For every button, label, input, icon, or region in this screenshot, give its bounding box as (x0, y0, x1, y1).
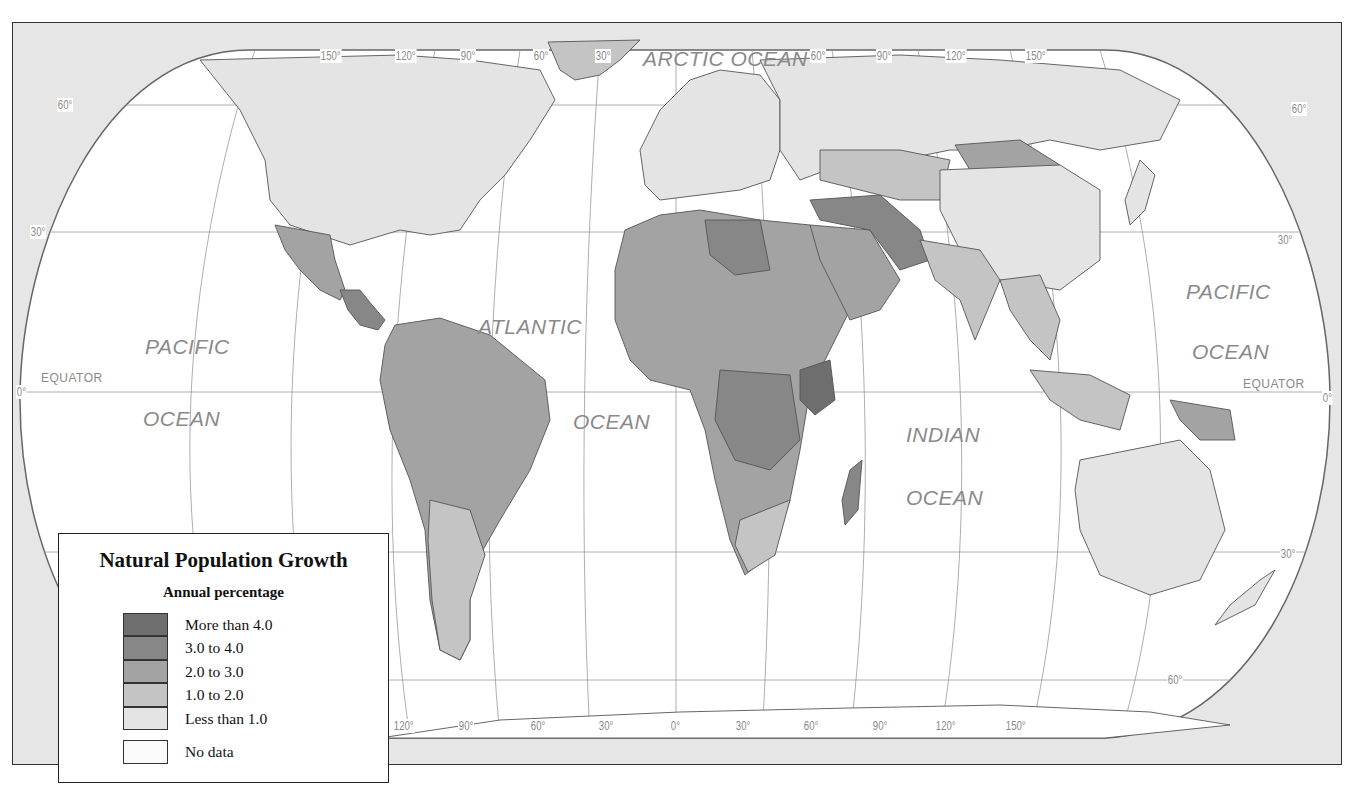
legend-title: Natural Population Growth (59, 548, 388, 573)
legend-no-data: No data (123, 740, 234, 764)
atlantic-ocean-label: ATLANTIC (478, 315, 582, 339)
legend-class-label: More than 4.0 (185, 616, 272, 634)
legend-class: 2.0 to 3.0 (123, 660, 272, 684)
legend-classes: More than 4.0 3.0 to 4.0 2.0 to 3.0 1.0 … (123, 613, 272, 731)
lon-label-top: 90° (460, 49, 476, 63)
indian-ocean-label: INDIAN (906, 423, 980, 447)
legend-class: 3.0 to 4.0 (123, 637, 272, 661)
map-legend: Natural Population Growth Annual percent… (58, 533, 389, 783)
lon-label-top: 120° (395, 49, 416, 63)
legend-class-label: 1.0 to 2.0 (185, 686, 244, 704)
legend-no-data-label: No data (185, 743, 234, 761)
legend-swatch (123, 683, 168, 707)
lat-label-left-0: 0° (16, 385, 27, 399)
legend-class: 1.0 to 2.0 (123, 684, 272, 708)
lat-label-left-60: 60° (57, 98, 73, 112)
lon-label-top: 60° (810, 49, 826, 63)
lat-label-right-s30: 30° (1280, 547, 1296, 561)
lon-label-bottom: 60° (530, 719, 546, 733)
legend-class: Less than 1.0 (123, 707, 272, 731)
legend-class-label: 3.0 to 4.0 (185, 639, 244, 657)
equator-label-right: EQUATOR (1243, 377, 1305, 391)
legend-swatch (123, 636, 168, 660)
lat-label-right-30: 30° (1277, 233, 1293, 247)
lat-label-right-60: 60° (1291, 102, 1307, 116)
lat-label-right-s60: 60° (1167, 673, 1183, 687)
lon-label-bottom: 120° (393, 719, 414, 733)
lon-label-bottom: 150° (1005, 719, 1026, 733)
lon-label-top: 150° (1025, 49, 1046, 63)
lon-label-bottom: 90° (458, 719, 474, 733)
lon-label-top: 150° (320, 49, 341, 63)
lat-label-right-0: 0° (1322, 391, 1333, 405)
lon-label-top: 90° (876, 49, 892, 63)
equator-label-left: EQUATOR (41, 371, 103, 385)
legend-class: More than 4.0 (123, 613, 272, 637)
pacific-ocean-west-label-2: OCEAN (143, 407, 220, 431)
indian-ocean-label-2: OCEAN (906, 486, 983, 510)
pacific-ocean-east-label-2: OCEAN (1192, 340, 1269, 364)
pacific-ocean-west-label: PACIFIC (145, 335, 230, 359)
lon-label-bottom: 0° (670, 719, 681, 733)
lon-label-bottom: 120° (935, 719, 956, 733)
lon-label-bottom: 60° (803, 719, 819, 733)
lon-label-bottom: 30° (598, 719, 614, 733)
pacific-ocean-east-label: PACIFIC (1186, 280, 1271, 304)
lon-label-top: 120° (945, 49, 966, 63)
legend-class-label: Less than 1.0 (185, 710, 267, 728)
atlantic-ocean-label-2: OCEAN (573, 410, 650, 434)
lon-label-top: 30° (595, 49, 611, 63)
legend-swatch (123, 660, 168, 684)
legend-class-label: 2.0 to 3.0 (185, 663, 244, 681)
lon-label-bottom: 90° (872, 719, 888, 733)
legend-swatch (123, 707, 168, 731)
legend-swatch (123, 613, 168, 637)
arctic-ocean-label: ARCTIC OCEAN (643, 47, 808, 71)
lon-label-top: 60° (533, 49, 549, 63)
legend-subtitle: Annual percentage (59, 584, 388, 601)
lon-label-bottom: 30° (735, 719, 751, 733)
lat-label-left-30: 30° (30, 225, 46, 239)
legend-swatch-no-data (123, 740, 168, 764)
